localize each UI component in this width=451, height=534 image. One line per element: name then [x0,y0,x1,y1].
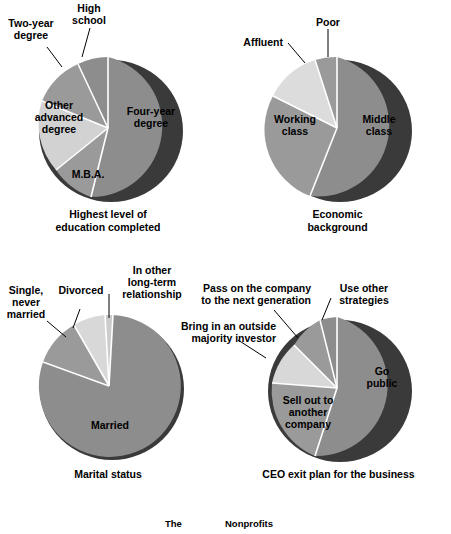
chart-education: Four-yeardegree M.B.A. Otheradvanceddegr… [0,0,226,245]
label-four-year-degree: Four-yeardegree [118,105,184,129]
economic-pie-svg [226,0,451,205]
caption-education: Highest level ofeducation completed [13,208,203,233]
label-middle-class: Middleclass [347,113,411,137]
chart-economic: Middleclass Workingclass Affluent Poor E… [226,0,451,245]
chart-ceo-exit: Gopublic Sell out toanothercompany Bring… [226,262,451,502]
label-divorced: Divorced [51,284,111,296]
label-poor: Poor [305,16,351,28]
label-high-school: Highschool [62,2,116,26]
caption-marital: Marital status [28,468,188,481]
label-affluent: Affluent [226,36,283,48]
leader-lines [288,29,328,63]
label-single-never-married: Single,nevermarried [0,284,52,320]
label-mba: M.B.A. [58,168,118,180]
label-two-year-degree: Two-yeardegree [0,17,62,41]
label-working-class: Workingclass [263,113,327,137]
label-sell-out: Sell out toanothercompany [269,394,347,430]
label-other-relationship: In otherlong-termrelationship [112,264,192,300]
label-other-advanced-degree: Otheradvanceddegree [27,99,91,135]
caption-ceo-exit: CEO exit plan for the business [236,468,441,481]
footer-fragment-left: The [165,518,182,529]
label-married: Married [75,419,145,431]
label-pass-on-company: Pass on the companyto the next generatio… [181,282,311,306]
label-bring-investor: Bring in an outsidemajority investor [166,320,276,344]
footer-fragment-right: Nonprofits [225,518,273,529]
label-use-other-strategies: Use otherstrategies [329,282,399,306]
label-go-public: Gopublic [355,365,409,389]
caption-economic: Economicbackground [250,208,425,233]
